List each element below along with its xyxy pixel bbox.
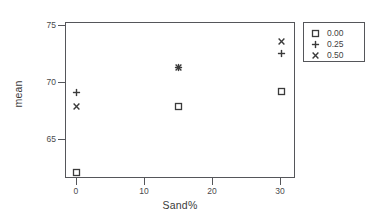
cross-icon bbox=[309, 50, 321, 61]
y-tick-label: 75 bbox=[47, 21, 56, 30]
x-tick-label: 10 bbox=[132, 187, 156, 196]
legend[interactable]: 0.000.250.50 bbox=[303, 22, 365, 62]
y-tick-mark bbox=[58, 25, 65, 26]
legend-item-label: 0.25 bbox=[327, 40, 344, 49]
data-point bbox=[276, 36, 287, 47]
data-point bbox=[71, 167, 82, 178]
legend-item-label: 0.50 bbox=[327, 51, 344, 60]
data-point bbox=[173, 62, 184, 73]
y-tick-mark bbox=[58, 139, 65, 140]
data-point bbox=[276, 86, 287, 97]
data-point bbox=[71, 87, 82, 98]
plus-icon bbox=[309, 39, 321, 50]
x-tick-label: 0 bbox=[64, 187, 88, 196]
legend-item[interactable]: 0.25 bbox=[309, 39, 344, 50]
y-tick-label: 70 bbox=[47, 78, 56, 87]
y-tick-mark bbox=[58, 82, 65, 83]
scatter-plot-figure: mean 757065 0102030 Sand% 0.000.250.50 bbox=[0, 0, 378, 222]
x-axis-title: Sand% bbox=[65, 199, 295, 211]
x-tick-mark bbox=[144, 178, 145, 185]
legend-item-label: 0.00 bbox=[327, 29, 344, 38]
plot-area bbox=[65, 22, 295, 178]
legend-item[interactable]: 0.00 bbox=[309, 28, 344, 39]
y-tick-label: 65 bbox=[47, 135, 56, 144]
x-tick-label: 30 bbox=[268, 187, 292, 196]
legend-item[interactable]: 0.50 bbox=[309, 50, 344, 61]
x-tick-mark bbox=[212, 178, 213, 185]
data-point bbox=[276, 48, 287, 59]
x-tick-mark bbox=[76, 178, 77, 185]
data-point bbox=[71, 101, 82, 112]
x-tick-label: 20 bbox=[200, 187, 224, 196]
y-axis-title: mean bbox=[12, 64, 24, 124]
x-tick-mark bbox=[280, 178, 281, 185]
open-square-icon bbox=[309, 28, 321, 39]
data-point bbox=[173, 101, 184, 112]
